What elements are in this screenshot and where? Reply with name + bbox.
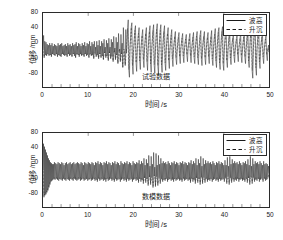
plot-area-top: 位移 /mm 80 40 0 -40 -80 0 10 20 30 40 50 — [42, 12, 270, 88]
x-tick-label-bottom-30: 30 — [169, 211, 189, 218]
legend-label-wave-bottom: 波高 — [249, 137, 263, 145]
plot-area-bottom: 位移 /mm 80 40 0 -40 -80 0 10 20 30 40 50 — [42, 132, 270, 208]
legend-row-wave-bottom: 波高 — [226, 136, 263, 145]
y-tick-label-bottom-m40: -40 — [18, 175, 38, 182]
legend-label-wave-top: 波高 — [249, 17, 263, 25]
legend-line-solid-icon-top — [226, 17, 246, 24]
annotation-top: 试验数据 — [142, 72, 170, 81]
y-tick-label-top-m40: -40 — [18, 55, 38, 62]
x-tick-label-bottom-50: 50 — [260, 211, 280, 218]
figure-two-panel-wave-displacement: 位移 /mm 80 40 0 -40 -80 0 10 20 30 40 50 — [0, 0, 283, 240]
legend-line-dashed-icon-top — [226, 26, 246, 33]
y-tick-label-bottom-0: 0 — [18, 159, 38, 166]
x-tick-label-top-0: 0 — [32, 91, 52, 98]
annotation-bottom: 数模数据 — [142, 192, 170, 201]
legend-line-solid-icon-bottom — [226, 137, 246, 144]
legend-bottom: 波高 升沉 — [223, 134, 267, 156]
legend-label-heave-bottom: 升沉 — [249, 146, 263, 154]
x-tick-label-top-30: 30 — [169, 91, 189, 98]
legend-top: 波高 升沉 — [223, 14, 267, 36]
x-axis-label-bottom: 时间 /s — [42, 220, 270, 230]
legend-row-heave-top: 升沉 — [226, 25, 263, 34]
x-tick-label-bottom-20: 20 — [123, 211, 143, 218]
y-tick-label-top-40: 40 — [18, 24, 38, 31]
x-tick-label-top-50: 50 — [260, 91, 280, 98]
x-axis-label-top: 时间 /s — [42, 100, 270, 110]
y-tick-label-top-0: 0 — [18, 39, 38, 46]
x-tick-label-top-20: 20 — [123, 91, 143, 98]
x-tick-label-top-40: 40 — [214, 91, 234, 98]
y-tick-label-top-m80: -80 — [18, 70, 38, 77]
y-tick-label-bottom-40: 40 — [18, 144, 38, 151]
x-tick-label-bottom-0: 0 — [32, 211, 52, 218]
panel-experimental-data: 位移 /mm 80 40 0 -40 -80 0 10 20 30 40 50 — [0, 0, 283, 120]
panel-numerical-model-data: 位移 /mm 80 40 0 -40 -80 0 10 20 30 40 50 — [0, 120, 283, 240]
y-tick-label-bottom-80: 80 — [18, 129, 38, 136]
legend-row-heave-bottom: 升沉 — [226, 145, 263, 154]
y-tick-label-bottom-m80: -80 — [18, 190, 38, 197]
x-tick-label-top-10: 10 — [78, 91, 98, 98]
x-tick-label-bottom-40: 40 — [214, 211, 234, 218]
x-tick-label-bottom-10: 10 — [78, 211, 98, 218]
y-tick-label-top-80: 80 — [18, 9, 38, 16]
legend-label-heave-top: 升沉 — [249, 26, 263, 34]
legend-line-dashed-icon-bottom — [226, 146, 246, 153]
legend-row-wave-top: 波高 — [226, 16, 263, 25]
